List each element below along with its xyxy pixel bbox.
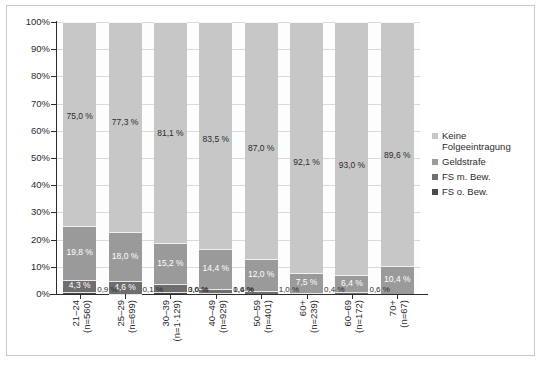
segment-divider <box>109 22 142 23</box>
category-count: (n=67) <box>398 300 409 366</box>
x-axis-tick <box>170 294 171 299</box>
y-axis-tick <box>51 49 57 50</box>
y-axis-tick <box>51 104 57 105</box>
legend-item[interactable]: Geldstrafe <box>432 156 534 167</box>
segment-value-label: 87,0 % <box>245 144 278 153</box>
segment-value-label-outside: 1,6 % <box>233 285 253 294</box>
y-axis-tick-label: 40% <box>16 180 50 190</box>
y-axis-labels: 0%10%20%30%40%50%60%70%80%90%100% <box>8 0 50 371</box>
legend-color-swatch <box>432 159 438 165</box>
segment-divider <box>381 266 414 267</box>
category-count: (n=929) <box>217 300 228 366</box>
y-axis-tick-label: 60% <box>16 126 50 136</box>
x-axis-tick <box>261 294 262 299</box>
bar-3039[interactable]: 15,2 %81,1 % <box>154 22 187 294</box>
segment-value-label: 92,1 % <box>290 158 323 167</box>
segment-value-label: 4,3 % <box>63 281 96 290</box>
category-count: (n=401) <box>262 300 273 366</box>
plot-area: 4,3 %19,8 %75,0 %4,6 %18,0 %77,3 %15,2 %… <box>57 22 420 294</box>
category-count: (n=239) <box>308 300 319 366</box>
y-axis-tick <box>51 240 57 241</box>
bar-segment[interactable]: 75,0 % <box>63 22 96 226</box>
segment-value-label-outside: 0,6 % <box>369 285 389 294</box>
y-axis-tick <box>51 212 57 213</box>
legend-item[interactable]: Keine Folgeeintragung <box>432 130 534 152</box>
x-axis-tick <box>352 294 353 299</box>
bar-6069[interactable]: 6,4 %93,0 % <box>335 22 368 294</box>
segment-value-label: 19,8 % <box>63 248 96 257</box>
y-axis-tick <box>51 131 57 132</box>
bar-segment[interactable]: 81,1 % <box>154 22 187 243</box>
legend-item[interactable]: FS o. Bew. <box>432 186 534 197</box>
bar-segment[interactable]: 77,3 % <box>109 22 142 232</box>
segment-divider <box>199 249 232 250</box>
segment-divider <box>154 22 187 23</box>
segment-value-label: 77,3 % <box>109 118 142 127</box>
x-axis-tick <box>80 294 81 299</box>
segment-value-label: 93,0 % <box>335 161 368 170</box>
y-axis-tick-label: 20% <box>16 235 50 245</box>
bar-segment[interactable]: 83,5 % <box>199 22 232 249</box>
chart-screenshot: 0%10%20%30%40%50%60%70%80%90%100% 4,3 %1… <box>0 0 543 371</box>
segment-value-label: 15,2 % <box>154 259 187 268</box>
bar-segment[interactable]: 89,6 % <box>381 22 414 266</box>
category-name: 21–24 <box>70 300 81 366</box>
x-axis-tick <box>307 294 308 299</box>
bar-60+[interactable]: 7,5 %92,1 % <box>290 22 323 294</box>
x-axis-category-label: 21–24(n=560) <box>68 300 92 370</box>
segment-divider <box>245 22 278 23</box>
bar-5059[interactable]: 12,0 %87,0 % <box>245 22 278 294</box>
legend-label: FS m. Bew. <box>442 171 491 182</box>
segment-divider <box>63 226 96 227</box>
segment-value-label-outside: 0,4 % <box>324 285 344 294</box>
x-axis-tick <box>216 294 217 299</box>
legend-color-swatch <box>432 189 438 195</box>
segment-divider <box>290 273 323 274</box>
y-axis-tick <box>51 76 57 77</box>
segment-value-label-outside: 0,1 % <box>143 285 163 294</box>
category-count: (n=560) <box>81 300 92 366</box>
category-name: 25–29 <box>115 300 126 366</box>
bar-segment[interactable]: 4,3 % <box>63 280 96 292</box>
segment-divider <box>199 22 232 23</box>
legend-label: Geldstrafe <box>442 156 486 167</box>
segment-value-label: 10,4 % <box>381 275 414 284</box>
y-axis-tick <box>51 158 57 159</box>
bar-segment[interactable]: 18,0 % <box>109 232 142 281</box>
bar-2529[interactable]: 4,6 %18,0 %77,3 % <box>109 22 142 294</box>
bar-70+[interactable]: 10,4 %89,6 % <box>381 22 414 294</box>
bar-segment[interactable]: 87,0 % <box>245 22 278 259</box>
segment-divider <box>109 232 142 233</box>
segment-divider <box>381 22 414 23</box>
x-axis-tick <box>397 294 398 299</box>
segment-divider <box>154 243 187 244</box>
bar-segment[interactable]: 14,4 % <box>199 249 232 288</box>
bar-2124[interactable]: 4,3 %19,8 %75,0 % <box>63 22 96 294</box>
x-axis-tick <box>125 294 126 299</box>
segment-value-label: 12,0 % <box>245 270 278 279</box>
x-axis-category-label: 60+(n=239) <box>295 300 319 370</box>
legend-item[interactable]: FS m. Bew. <box>432 171 534 182</box>
segment-value-label: 75,0 % <box>63 112 96 121</box>
x-axis-category-label: 40–49(n=929) <box>204 300 228 370</box>
segment-divider <box>290 22 323 23</box>
y-axis-tick-label: 30% <box>16 207 50 217</box>
bar-segment[interactable]: 93,0 % <box>335 22 368 275</box>
y-axis-tick-label: 90% <box>16 44 50 54</box>
bar-segment[interactable]: 19,8 % <box>63 226 96 280</box>
category-name: 40–49 <box>206 300 217 366</box>
y-axis-tick-label: 80% <box>16 71 50 81</box>
bar-segment[interactable]: 15,2 % <box>154 243 187 284</box>
segment-value-label-outside: 1,0 % <box>279 285 299 294</box>
bar-4049[interactable]: 14,4 %83,5 % <box>199 22 232 294</box>
segment-value-label: 83,5 % <box>199 135 232 144</box>
segment-divider <box>63 22 96 23</box>
bar-segment[interactable]: 92,1 % <box>290 22 323 273</box>
y-axis-tick-label: 70% <box>16 99 50 109</box>
category-name: 60+ <box>297 300 308 366</box>
category-name: 60–69 <box>342 300 353 366</box>
y-axis-tick <box>51 22 57 23</box>
segment-value-label: 89,6 % <box>381 151 414 160</box>
x-axis-category-label: 25–29(n=699) <box>113 300 137 370</box>
legend-color-swatch <box>432 174 438 180</box>
